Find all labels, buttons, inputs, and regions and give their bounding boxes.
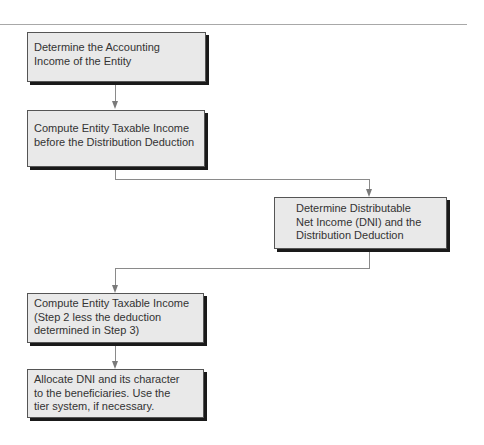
top-rule	[0, 24, 467, 25]
step-2-line-2: before the Distribution Deduction	[34, 136, 198, 150]
step-5-box: Allocate DNI and its character to the be…	[27, 369, 204, 418]
arrow-down-icon	[112, 101, 118, 109]
arrow-down-icon	[112, 361, 118, 369]
step-1-box: Determine the Accounting Income of the E…	[27, 32, 206, 82]
step-3-box: Determine Distributable Net Income (DNI)…	[274, 197, 447, 249]
connector-2-3-horizontal	[115, 179, 370, 180]
step-5-line-3: tier system, if necessary.	[34, 400, 197, 414]
step-2-box: Compute Entity Taxable Income before the…	[27, 110, 205, 167]
connector-1-2	[115, 85, 116, 102]
arrow-down-icon	[366, 189, 372, 197]
step-4-line-3: determined in Step 3)	[34, 324, 197, 338]
connector-3-4-drop	[115, 268, 116, 285]
step-3-line-1: Determine Distributable	[296, 202, 440, 216]
step-1-line-2: Income of the Entity	[34, 55, 199, 69]
step-4-line-1: Compute Entity Taxable Income	[34, 297, 197, 311]
step-3-line-2: Net Income (DNI) and the	[296, 216, 440, 230]
connector-3-4-horizontal	[115, 268, 370, 269]
step-2-line-1: Compute Entity Taxable Income	[34, 122, 198, 136]
step-4-box: Compute Entity Taxable Income (Step 2 le…	[27, 293, 204, 343]
step-1-line-1: Determine the Accounting	[34, 41, 199, 55]
connector-4-5	[115, 346, 116, 362]
arrow-down-icon	[112, 285, 118, 293]
step-3-line-3: Distribution Deduction	[296, 229, 440, 243]
step-5-line-1: Allocate DNI and its character	[34, 373, 197, 387]
step-4-line-2: (Step 2 less the deduction	[34, 311, 197, 325]
connector-3-4-down	[369, 252, 370, 269]
step-5-line-2: to the beneficiaries. Use the	[34, 387, 197, 401]
